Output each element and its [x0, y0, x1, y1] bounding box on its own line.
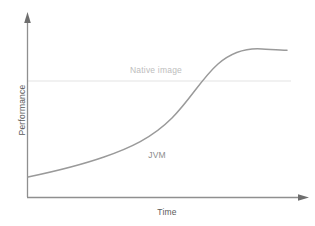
y-axis-arrow-icon: [24, 12, 31, 23]
native-image-series-label: Native image: [130, 65, 182, 75]
jvm-series-label: JVM: [148, 150, 166, 160]
y-axis-title: Performance: [17, 85, 27, 136]
chart-canvas: [0, 0, 315, 226]
x-axis-arrow-icon: [298, 194, 309, 201]
chart-container: Performance Time Native image JVM: [0, 0, 315, 226]
x-axis-title: Time: [157, 207, 176, 217]
